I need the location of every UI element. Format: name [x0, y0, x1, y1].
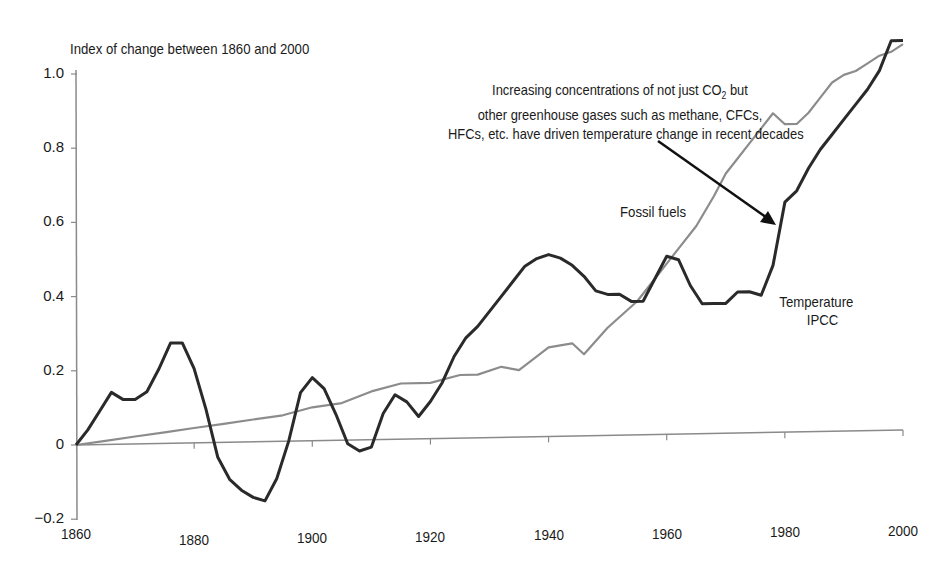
x-axis-baseline	[76, 430, 903, 445]
x-tick-label: 2000	[888, 522, 918, 539]
y-tick-label: 1.0	[14, 64, 64, 81]
x-tick-label: 1860	[61, 525, 91, 542]
annotation-line-2: other greenhouse gases such as methane, …	[448, 105, 792, 124]
y-tick-label: 0.2	[14, 361, 64, 378]
annotation-line-3: HFCs, etc. have driven temperature chang…	[448, 124, 792, 143]
temperature-label-line-2: IPCC	[768, 311, 865, 329]
temperature-label: Temperature IPCC	[768, 293, 865, 329]
x-tick-label: 1880	[179, 531, 209, 548]
annotation-line-1: Increasing concentrations of not just CO…	[448, 80, 792, 105]
y-tick-label: 0	[14, 435, 64, 452]
y-tick-label: 0.4	[14, 287, 64, 304]
y-axis	[76, 70, 77, 520]
x-axis-ticks	[194, 430, 903, 449]
y-axis-title: Index of change between 1860 and 2000	[70, 40, 309, 57]
x-tick-label: 1920	[415, 528, 445, 545]
y-tick-label: −0.2	[14, 509, 64, 526]
annotation-text: Increasing concentrations of not just CO…	[448, 80, 792, 143]
y-tick-label: 0.8	[14, 138, 64, 155]
x-tick-label: 1940	[534, 526, 564, 543]
y-tick-label: 0.6	[14, 212, 64, 229]
temperature-label-line-1: Temperature	[768, 293, 865, 311]
x-tick-label: 1960	[652, 525, 682, 542]
fossil-fuels-label: Fossil fuels	[620, 203, 686, 221]
x-tick-label: 1900	[297, 529, 327, 546]
x-tick-label: 1980	[770, 523, 800, 540]
